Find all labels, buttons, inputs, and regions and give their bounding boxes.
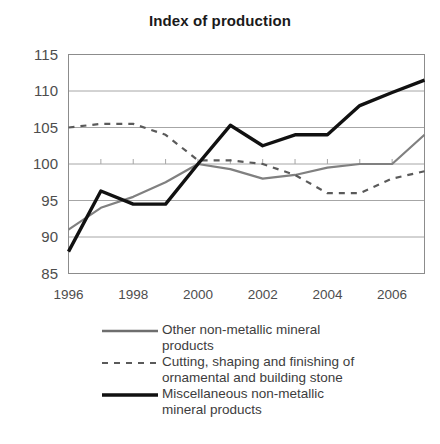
line-chart-svg <box>0 0 440 300</box>
x-axis-labels: 199619982000200220042006 <box>0 288 440 308</box>
y-axis-tick-label: 115 <box>16 47 58 62</box>
y-axis-tick-label: 95 <box>16 193 58 208</box>
data-series-group <box>69 80 425 252</box>
legend-item-cutting-shaping-finishing: Cutting, shaping and finishing of orname… <box>100 354 440 385</box>
y-axis-tick-label: 100 <box>16 156 58 171</box>
legend-item-other-non-metallic: Other non-metallic mineral products <box>100 322 440 353</box>
y-axis-tick-label: 90 <box>16 229 58 244</box>
x-axis-tick-label: 2006 <box>370 288 414 302</box>
y-axis-tick-label: 105 <box>16 120 58 135</box>
legend-label-other-non-metallic: Other non-metallic mineral products <box>162 322 320 353</box>
x-axis-tick-label: 2004 <box>305 288 349 302</box>
legend-swatch-dashed-icon <box>100 354 162 371</box>
chart-legend: Other non-metallic mineral products Cutt… <box>100 322 440 418</box>
legend-label-line2: mineral products <box>162 402 262 417</box>
legend-label-line1: Cutting, shaping and finishing of <box>162 354 354 369</box>
legend-swatch-solid-thin-icon <box>100 322 162 339</box>
x-axis-tick-label: 1998 <box>111 288 155 302</box>
legend-label-miscellaneous-non-metallic: Miscellaneous non-metallic mineral produ… <box>162 386 324 417</box>
legend-label-line1: Other non-metallic mineral <box>162 322 320 337</box>
legend-label-line1: Miscellaneous non-metallic <box>162 386 324 401</box>
x-axis-tick-label: 1996 <box>47 288 91 302</box>
series-line-other-non-metallic <box>69 135 425 230</box>
legend-label-line2: products <box>162 338 214 353</box>
series-line-miscellaneous-non-metallic <box>69 80 425 252</box>
y-axis-tick-label: 85 <box>16 266 58 281</box>
chart-plot-area: 115110105100959085 <box>0 0 440 300</box>
y-axis-tick-label: 110 <box>16 83 58 98</box>
x-axis-tick-label: 2002 <box>241 288 285 302</box>
legend-item-miscellaneous-non-metallic: Miscellaneous non-metallic mineral produ… <box>100 386 440 417</box>
legend-label-cutting-shaping-finishing: Cutting, shaping and finishing of orname… <box>162 354 354 385</box>
legend-swatch-solid-thick-icon <box>100 386 162 403</box>
legend-label-line2: ornamental and building stone <box>162 370 343 385</box>
x-axis-tick-label: 2000 <box>176 288 220 302</box>
